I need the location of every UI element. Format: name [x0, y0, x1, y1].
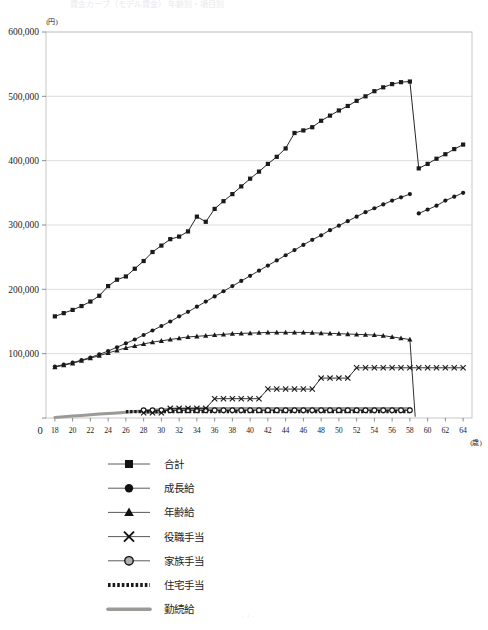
marker-square [159, 243, 163, 247]
marker-circle-open [310, 408, 315, 413]
marker-circle-open [274, 408, 279, 413]
y-tick-label: 200,000 [8, 285, 39, 295]
marker-circle [301, 243, 305, 247]
marker-square [275, 155, 279, 159]
marker-circle [168, 319, 172, 323]
marker-square [363, 94, 367, 98]
marker-circle [204, 299, 208, 303]
legend-item-家族手当[interactable]: 家族手当 [108, 555, 204, 567]
marker-square [106, 284, 110, 288]
y-tick-label: 500,000 [8, 92, 39, 102]
marker-square [177, 234, 181, 238]
marker-circle [106, 349, 110, 353]
marker-square [319, 119, 323, 123]
marker-square [221, 199, 225, 203]
x-tick-label: 20 [69, 426, 77, 435]
x-tick-label: 28 [140, 426, 148, 435]
x-tick-label: 44 [282, 426, 290, 435]
legend-label: 家族手当 [164, 555, 204, 567]
marker-circle [426, 207, 430, 211]
x-tick-label: 22 [86, 426, 94, 435]
legend-item-役職手当[interactable]: 役職手当 [108, 531, 204, 543]
marker-circle-open [301, 408, 306, 413]
marker-circle [408, 192, 412, 196]
legend-label: 年齢給 [164, 506, 195, 518]
x-tick-label: 52 [353, 426, 361, 435]
marker-square [204, 220, 208, 224]
y-tick-label: 600,000 [8, 27, 39, 37]
marker-square [390, 82, 394, 86]
legend-item-成長給[interactable]: 成長給 [108, 482, 195, 494]
marker-square [292, 131, 296, 135]
x-tick-label: 48 [317, 426, 325, 435]
marker-square [284, 146, 288, 150]
y-tick-label: 100,000 [8, 349, 39, 359]
legend-marker-circle-open [125, 557, 133, 565]
marker-circle-open [399, 408, 404, 413]
marker-circle [328, 228, 332, 232]
marker-square [230, 192, 234, 196]
marker-circle-open [221, 408, 226, 413]
x-axis-unit-label: (歳) [470, 438, 482, 447]
x-tick-label: 54 [370, 426, 378, 435]
marker-circle [399, 195, 403, 199]
marker-circle [355, 215, 359, 219]
marker-square [133, 267, 137, 271]
marker-circle [213, 294, 217, 298]
origin-zero-label: 0 [37, 425, 42, 436]
marker-circle-open [265, 408, 270, 413]
marker-square [186, 229, 190, 233]
legend-item-年齢給[interactable]: 年齢給 [108, 506, 195, 518]
marker-circle [71, 361, 75, 365]
marker-circle [248, 274, 252, 278]
marker-circle [292, 248, 296, 252]
x-tick-label: 58 [406, 426, 414, 435]
marker-circle-open [283, 408, 288, 413]
marker-square [88, 299, 92, 303]
x-tick-label: 18 [51, 426, 59, 435]
marker-circle [124, 341, 128, 345]
marker-circle [257, 269, 261, 273]
marker-circle [372, 206, 376, 210]
x-tick-label: 56 [388, 426, 396, 435]
y-tick-label: 400,000 [8, 156, 39, 166]
marker-circle [434, 204, 438, 208]
marker-square [301, 128, 305, 132]
x-tick-label: 50 [335, 426, 343, 435]
marker-circle-open [230, 408, 235, 413]
marker-circle [310, 238, 314, 242]
marker-circle [337, 224, 341, 228]
marker-circle [381, 202, 385, 206]
marker-square [443, 152, 447, 156]
marker-square [337, 108, 341, 112]
legend-item-合計[interactable]: 合計 [108, 458, 185, 470]
y-tick-label: 300,000 [8, 220, 39, 230]
marker-square [168, 237, 172, 241]
marker-square [150, 250, 154, 254]
legend-marker-triangle [124, 508, 134, 516]
marker-circle [133, 337, 137, 341]
marker-square [257, 170, 261, 174]
marker-circle [266, 263, 270, 267]
marker-circle [79, 358, 83, 362]
marker-circle [417, 211, 421, 215]
marker-circle [177, 314, 181, 318]
marker-circle [221, 289, 225, 293]
marker-circle [88, 355, 92, 359]
marker-square [142, 259, 146, 263]
marker-circle [62, 363, 66, 367]
legend-item-勤続給[interactable]: 勤続給 [108, 603, 195, 615]
marker-square [124, 274, 128, 278]
x-tick-label: 26 [122, 426, 130, 435]
legend-item-住宅手当[interactable]: 住宅手当 [108, 579, 204, 591]
marker-square [434, 157, 438, 161]
marker-circle [195, 305, 199, 309]
marker-circle-open [381, 408, 386, 413]
x-tick-label: 36 [211, 426, 219, 435]
marker-square [399, 80, 403, 84]
x-tick-label: 60 [424, 426, 432, 435]
marker-circle [284, 253, 288, 257]
marker-circle [452, 195, 456, 199]
marker-circle-open [390, 408, 395, 413]
x-tick-label: 40 [246, 426, 254, 435]
